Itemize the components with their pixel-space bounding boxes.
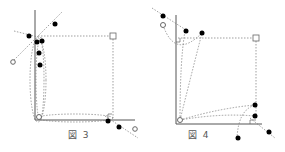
- point: [27, 34, 32, 39]
- point: [117, 125, 122, 130]
- figure-4-caption: 図 4: [188, 128, 208, 141]
- hollow-point: [178, 118, 183, 123]
- point: [35, 40, 40, 45]
- point: [253, 114, 258, 119]
- hollow-point: [37, 115, 42, 120]
- hollow-point: [11, 60, 16, 65]
- point: [40, 39, 45, 44]
- point: [200, 31, 205, 36]
- corner-square-icon: [110, 33, 116, 39]
- figure-3: 図 3: [0, 0, 145, 152]
- point: [37, 51, 42, 56]
- figure-4: 図 4: [140, 0, 285, 152]
- hollow-point: [161, 23, 166, 28]
- corner-square-icon: [253, 35, 259, 41]
- point: [106, 119, 111, 124]
- figure-3-caption: 図 3: [68, 128, 88, 141]
- point: [236, 136, 241, 141]
- point: [184, 29, 189, 34]
- figure-4-diagram: [140, 0, 285, 152]
- point: [267, 130, 272, 135]
- hollow-point: [133, 127, 138, 132]
- point: [161, 14, 166, 19]
- point: [38, 63, 43, 68]
- point: [53, 22, 58, 27]
- point: [253, 103, 258, 108]
